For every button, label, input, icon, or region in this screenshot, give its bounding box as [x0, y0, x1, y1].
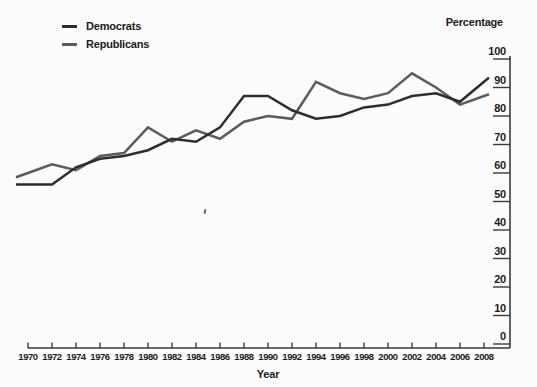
y-tick-label: 80: [494, 102, 506, 114]
x-tick-label: 1976: [90, 351, 110, 362]
x-tick-label: 1986: [210, 351, 230, 362]
x-tick-label: 2002: [402, 351, 422, 362]
republicans-legend-label: Republicans: [86, 38, 149, 50]
x-tick-label: 2000: [378, 351, 398, 362]
y-tick-label: 20: [494, 273, 506, 285]
democrats-line: [16, 78, 489, 185]
republicans-line-swatch: [62, 43, 77, 46]
x-tick-label: 1998: [354, 351, 374, 362]
x-tick-label: 1984: [186, 351, 207, 362]
x-tick-label: 2004: [426, 351, 447, 362]
chart-figure: 0102030405060708090100197019721974197619…: [0, 0, 537, 387]
legend-item-republicans: Republicans: [62, 35, 149, 53]
y-tick-label: 0: [500, 330, 506, 342]
y-tick-label: 30: [494, 245, 506, 257]
y-tick-label: 100: [488, 45, 506, 57]
y-tick-label: 60: [494, 159, 506, 171]
democrats-legend-label: Democrats: [86, 20, 141, 32]
x-tick-label: 1992: [282, 351, 302, 362]
y-axis-title: Percentage: [425, 16, 503, 28]
y-tick-label: 70: [494, 131, 506, 143]
x-tick-label: 1980: [138, 351, 158, 362]
x-tick-label: 2008: [474, 351, 494, 362]
x-tick-label: 1988: [234, 351, 254, 362]
y-tick-label: 90: [494, 74, 506, 86]
legend: Democrats Republicans: [62, 17, 149, 53]
x-tick-label: 1978: [114, 351, 134, 362]
x-tick-label: 1982: [162, 351, 182, 362]
y-tick-label: 10: [494, 302, 506, 314]
x-tick-label: 2006: [450, 351, 470, 362]
x-tick-label: 1974: [66, 351, 87, 362]
x-tick-label: 1972: [42, 351, 62, 362]
plot-area: 0102030405060708090100197019721974197619…: [0, 0, 537, 387]
x-tick-label: 1996: [330, 351, 350, 362]
x-tick-label: 1990: [258, 351, 278, 362]
y-tick-label: 40: [494, 216, 506, 228]
x-tick-label: 1970: [18, 351, 38, 362]
y-tick-label: 50: [494, 188, 506, 200]
x-axis-title: Year: [238, 368, 298, 380]
x-tick-label: 1994: [306, 351, 327, 362]
legend-item-democrats: Democrats: [62, 17, 149, 35]
democrats-line-swatch: [62, 25, 77, 28]
republicans-line: [16, 73, 489, 177]
